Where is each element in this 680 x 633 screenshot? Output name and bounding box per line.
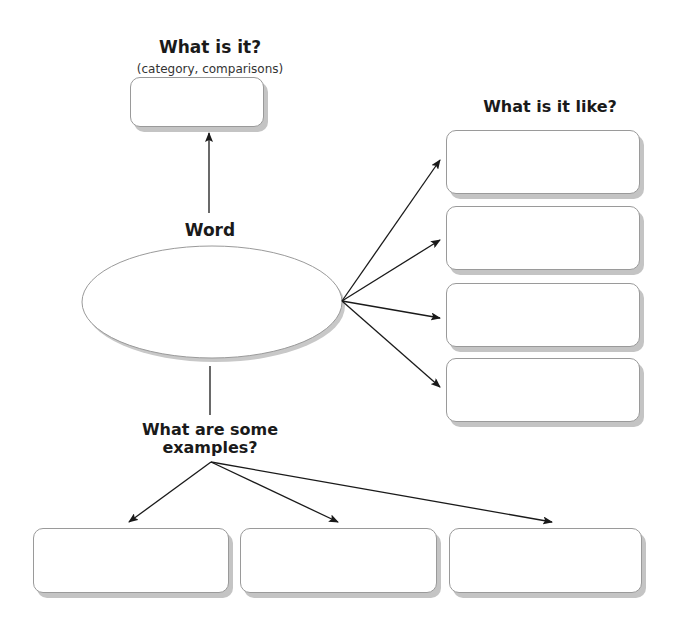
what-is-it-label: What is it? <box>130 37 290 57</box>
category-box[interactable] <box>130 77 264 127</box>
arrow-right-3 <box>342 301 440 318</box>
arrow-right-1 <box>342 160 440 301</box>
what-is-it-like-label: What is it like? <box>460 97 640 116</box>
description-box-4[interactable] <box>446 358 640 422</box>
description-box-1[interactable] <box>446 130 640 194</box>
description-box-2[interactable] <box>446 206 640 270</box>
what-is-it-sublabel: (category, comparisons) <box>120 62 300 76</box>
arrow-bottom-3 <box>211 462 552 522</box>
arrow-right-2 <box>342 240 440 301</box>
example-box-1[interactable] <box>33 528 229 593</box>
examples-label-line2: examples? <box>130 438 290 457</box>
example-box-2[interactable] <box>240 528 437 593</box>
arrow-bottom-1 <box>129 462 211 522</box>
arrow-bottom-2 <box>211 462 338 522</box>
examples-label-line1: What are some <box>130 420 290 439</box>
example-box-3[interactable] <box>449 528 642 593</box>
word-ellipse[interactable] <box>82 246 342 358</box>
word-label: Word <box>160 220 260 240</box>
description-box-3[interactable] <box>446 283 640 347</box>
arrow-right-4 <box>342 301 440 387</box>
